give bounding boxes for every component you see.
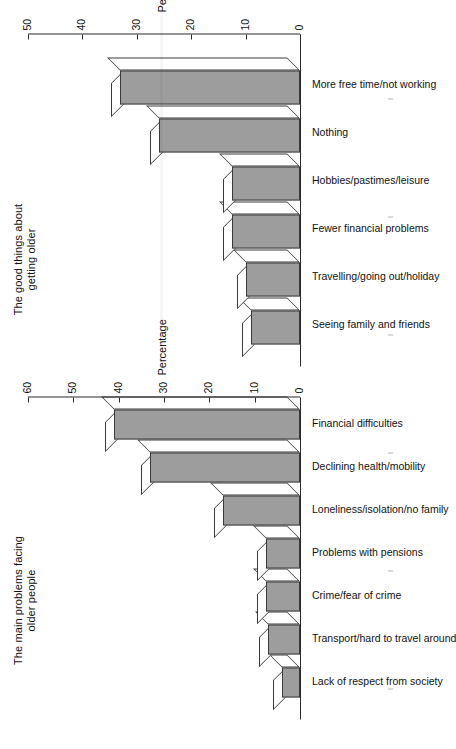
category-label: Transport/hard to travel around <box>312 631 456 643</box>
plot-area-good-things: Seeing family and friendsTravelling/goin… <box>0 0 398 374</box>
category-label: Problems with pensions <box>312 545 423 557</box>
y-axis-tick <box>191 34 192 39</box>
y-axis-tick <box>300 34 301 39</box>
category-label: Declining health/mobility <box>312 459 425 471</box>
axis-baseline <box>300 34 301 366</box>
bar <box>282 667 300 697</box>
bar-side-face <box>146 105 300 118</box>
y-axis-tick <box>137 34 138 39</box>
bar <box>266 581 300 611</box>
bar-side-face <box>101 396 300 409</box>
y-axis-tick-label: 30 <box>130 8 142 30</box>
category-label: Financial difficulties <box>312 416 403 428</box>
y-axis-tick <box>164 397 165 402</box>
category-label: Travelling/going out/holiday <box>312 269 439 281</box>
y-axis-tick <box>255 397 256 402</box>
bar <box>223 495 300 525</box>
bar <box>251 310 300 344</box>
y-axis-tick <box>28 397 29 402</box>
y-axis-tick-label: 10 <box>239 8 251 30</box>
bar <box>159 118 300 152</box>
y-axis-line <box>28 33 300 34</box>
y-axis-tick <box>246 34 247 39</box>
bar <box>232 166 300 200</box>
category-label: Seeing family and friends <box>312 317 430 329</box>
chart-main-problems: The main problems facing older people La… <box>0 374 398 749</box>
y-axis-tick <box>119 397 120 402</box>
y-axis-tick-label: 40 <box>75 8 87 30</box>
y-axis-tick <box>209 397 210 402</box>
y-axis-tick <box>73 397 74 402</box>
y-axis-title: Percentage <box>156 0 168 12</box>
y-axis-tick <box>82 34 83 39</box>
plot-area-main-problems: Lack of respect from societyTransport/ha… <box>0 374 398 749</box>
category-label: More free time/not working <box>312 77 436 89</box>
y-axis-tick-label: 0 <box>293 8 305 30</box>
y-axis-tick-label: 50 <box>21 8 33 30</box>
bar-side-face <box>138 439 300 452</box>
bar <box>232 214 300 248</box>
bar <box>120 70 300 104</box>
bar <box>150 452 300 482</box>
bar <box>266 538 300 568</box>
bar-side-face <box>269 654 300 667</box>
bar <box>268 624 300 654</box>
bar-side-face <box>219 153 300 166</box>
category-label: Crime/fear of crime <box>312 588 401 600</box>
category-label: Loneliness/isolation/no family <box>312 502 449 514</box>
category-label: Hobbies/pastimes/leisure <box>312 173 429 185</box>
bar-side-face <box>233 249 300 262</box>
bar-side-face <box>253 525 300 538</box>
category-label: Nothing <box>312 125 348 137</box>
axis-baseline <box>300 397 301 719</box>
category-label: Lack of respect from society <box>312 674 443 686</box>
bar <box>114 409 300 439</box>
category-label: Fewer financial problems <box>312 221 429 233</box>
bar-side-face <box>108 57 300 70</box>
y-axis-tick <box>300 397 301 402</box>
y-axis-tick-label: 20 <box>184 8 196 30</box>
y-axis-tick <box>28 34 29 39</box>
chart-good-things: The good things about getting older Seei… <box>0 0 398 374</box>
bar-side-face <box>238 297 300 310</box>
bar <box>246 262 300 296</box>
bar-side-face <box>210 482 300 495</box>
